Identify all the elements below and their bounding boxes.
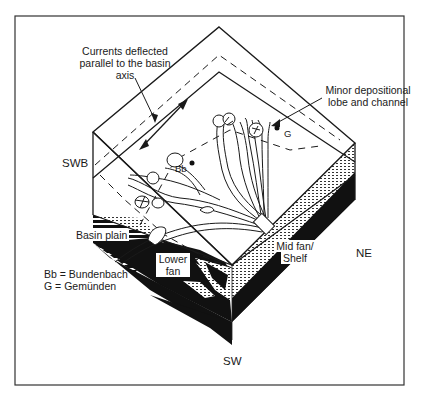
g-marker-label: G — [284, 128, 291, 140]
mid-fan-label: Mid fan/ Shelf — [270, 240, 320, 264]
minor-lobe-leader — [275, 98, 322, 124]
lower-fan-label: Lower fan — [156, 253, 190, 277]
bundenbach-marker — [190, 161, 195, 166]
legend: Bb = Bundenbach G = Gemünden — [44, 268, 128, 292]
sw-label: SW — [223, 355, 242, 367]
legend-bundenbach: Bb = Bundenbach — [44, 268, 128, 280]
minor-lobe-label: Minor depositional lobe and channel — [318, 84, 418, 108]
gemuenden-marker — [275, 126, 280, 131]
block-diagram — [0, 0, 428, 396]
currents-label: Currents deflected parallel to the basin… — [70, 45, 180, 81]
swb-label: SWB — [62, 157, 88, 169]
legend-gemuenden: G = Gemünden — [44, 280, 128, 292]
basin-plain-label: Basin plain — [74, 229, 129, 241]
ne-label: NE — [356, 247, 372, 259]
current-arrow — [142, 102, 185, 147]
bb-marker-label: Bb — [175, 163, 187, 175]
